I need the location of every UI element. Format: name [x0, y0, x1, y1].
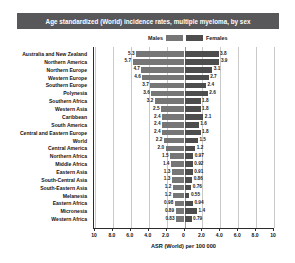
bar-female	[185, 98, 201, 104]
axis-tick-label: 2.0	[162, 232, 169, 238]
category-label: Central and Eastern Europe	[20, 129, 87, 137]
bar-male	[173, 185, 184, 191]
bar-male	[136, 51, 183, 57]
axis-tick-label: 6.0	[126, 232, 133, 238]
bar-male	[172, 169, 184, 175]
bar-female	[185, 114, 204, 120]
bar-value-male: 1.2	[165, 184, 172, 191]
bar-value-male: 2.4	[154, 114, 161, 121]
bar-value-female: 1.4	[199, 208, 206, 215]
bar-value-female: 1.8	[202, 98, 209, 105]
bar-value-female: 0.79	[193, 216, 202, 223]
category-label: Western Europe	[48, 74, 87, 82]
bar-value-male: 2.4	[154, 121, 161, 128]
bar-female	[185, 161, 193, 167]
bar-female	[185, 130, 201, 136]
bar-value-male: 1.3	[164, 176, 171, 183]
category-label: Melanesia	[63, 192, 87, 200]
bar-male	[150, 83, 183, 89]
legend-swatch-females	[186, 35, 203, 41]
bar-value-male: 3.7	[142, 82, 149, 89]
bar-female	[185, 67, 213, 73]
x-axis-title: ASR (World) per 100 000	[93, 243, 274, 249]
bar-male	[173, 193, 184, 199]
bar-value-male: 2.0	[158, 145, 165, 152]
legend-swatch-males	[166, 35, 183, 41]
category-label: Western Asia	[55, 105, 87, 113]
bar-value-female: 1.8	[202, 106, 209, 113]
category-axis-labels: Australia and New ZealandNorthern Americ…	[0, 47, 90, 229]
bar-male	[141, 67, 183, 73]
bar-value-female: 2.4	[207, 82, 214, 89]
bar-male	[151, 91, 183, 97]
bar-value-female: 0.92	[194, 161, 203, 168]
bar-female	[185, 146, 196, 152]
axis-tick-label: 4.0	[216, 232, 223, 238]
bar-female	[185, 185, 192, 191]
table-row: 0.830.79	[94, 215, 274, 223]
axis-tick-label: 4.0	[144, 232, 151, 238]
bar-value-male: 3.2	[147, 98, 154, 105]
bar-male	[164, 138, 184, 144]
axis-tick-label: 8.0	[108, 232, 115, 238]
bar-value-male: 5.3	[128, 51, 135, 58]
page-title: Age standardized (World) incidence rates…	[46, 18, 251, 25]
plot-area: 5.33.85.73.94.73.14.62.73.72.43.62.63.21…	[93, 47, 274, 229]
chart-container: Age standardized (World) incidence rates…	[0, 0, 295, 263]
bar-value-female: 0.76	[193, 184, 202, 191]
axis-tick-label: 0	[182, 232, 185, 238]
bar-male	[175, 201, 184, 207]
bar-value-male: 1.3	[164, 169, 171, 176]
bar-male	[171, 161, 184, 167]
bar-value-female: 2.6	[209, 90, 216, 97]
bar-value-female: 3.9	[221, 58, 228, 65]
table-row: 1.40.92	[94, 160, 274, 168]
bar-value-male: 2.4	[154, 129, 161, 136]
bar-value-male: 0.98	[164, 200, 173, 207]
bar-value-female: 3.8	[220, 51, 227, 58]
bar-value-male: 5.7	[124, 58, 131, 65]
bar-value-female: 2.7	[210, 74, 217, 81]
table-row: 2.51.8	[94, 105, 274, 113]
bar-female	[185, 208, 198, 214]
bar-male	[176, 208, 184, 214]
axis-tick-label: 2.0	[198, 232, 205, 238]
bar-female	[185, 169, 193, 175]
bar-value-male: 2.2	[156, 137, 163, 144]
bar-value-male: 3.6	[143, 90, 150, 97]
bar-male	[162, 122, 183, 128]
bar-value-male: 4.6	[134, 74, 141, 81]
axis-tick-label: 10	[91, 232, 97, 238]
bar-female	[185, 75, 209, 81]
bar-male	[162, 130, 183, 136]
bar-male	[176, 216, 183, 222]
bar-male	[170, 153, 183, 159]
legend-label-females: Females	[206, 35, 228, 41]
bar-value-male: 0.83	[165, 216, 174, 223]
bar-value-female: 2.1	[205, 114, 212, 121]
bar-value-female: 1.6	[200, 121, 207, 128]
bar-male	[133, 59, 184, 65]
chart-legend: Males Females	[148, 33, 228, 42]
bar-female	[185, 91, 208, 97]
bar-value-female: 1.5	[199, 137, 206, 144]
bar-male	[172, 177, 184, 183]
bar-female	[185, 153, 194, 159]
bar-female	[185, 106, 201, 112]
category-label: Middle Africa	[55, 160, 87, 168]
bar-female	[185, 138, 198, 144]
bar-male	[142, 75, 183, 81]
category-label: Western Africa	[51, 215, 87, 223]
bar-value-female: 3.1	[214, 66, 221, 73]
chart-title-bar: Age standardized (World) incidence rates…	[17, 13, 279, 29]
bar-value-female: 0.86	[194, 176, 203, 183]
gridline	[274, 47, 275, 228]
x-axis-ticks: 108.06.04.02.002.04.06.08.010	[93, 229, 274, 239]
bar-value-female: 1.8	[202, 129, 209, 136]
bar-value-female: 1.2	[197, 145, 204, 152]
table-row: 4.62.7	[94, 74, 274, 82]
bar-female	[185, 193, 190, 199]
bar-female	[185, 177, 193, 183]
table-row: 2.41.8	[94, 129, 274, 137]
axis-tick-label: 8.0	[252, 232, 259, 238]
